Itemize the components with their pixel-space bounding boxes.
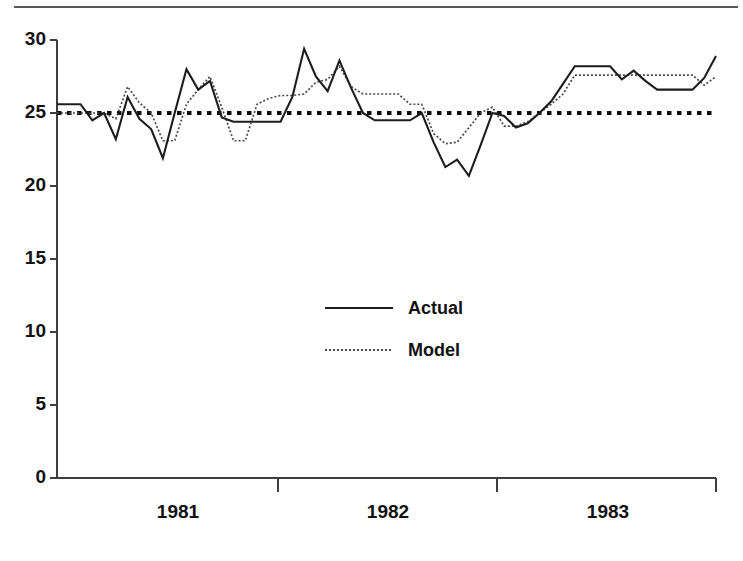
- y-tick-label-25: 25: [25, 101, 47, 122]
- y-tick-label-5: 5: [35, 393, 46, 414]
- x-axis: [57, 478, 716, 492]
- series-line-model: [57, 66, 716, 143]
- y-tick-label-20: 20: [25, 174, 46, 195]
- line-chart-canvas: 30 25 20 15 10 5 0 1981: [0, 0, 743, 561]
- legend-label-actual: Actual: [408, 298, 463, 318]
- x-tick-label-1983: 1983: [587, 501, 629, 522]
- chart-legend: Actual Model: [325, 298, 463, 360]
- y-tick-label-10: 10: [25, 320, 46, 341]
- x-tick-label-1981: 1981: [157, 501, 200, 522]
- x-tick-label-1982: 1982: [367, 501, 409, 522]
- legend-label-model: Model: [408, 340, 460, 360]
- chart-figure: 30 25 20 15 10 5 0 1981: [0, 0, 743, 561]
- y-axis: [50, 40, 57, 478]
- y-tick-label-30: 30: [25, 28, 46, 49]
- y-tick-label-0: 0: [35, 466, 46, 487]
- y-tick-label-15: 15: [25, 247, 47, 268]
- y-axis-tick-labels: 30 25 20 15 10 5 0: [25, 28, 47, 487]
- x-axis-tick-labels: 1981 1982 1983: [157, 501, 629, 522]
